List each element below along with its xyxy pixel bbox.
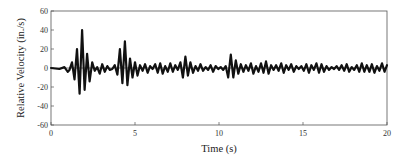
plot-area: 6040200-20-40-60 05101520	[37, 7, 391, 138]
y-tick-label: -40	[37, 102, 48, 111]
y-tick-label: -60	[37, 121, 48, 130]
chart-svg: 6040200-20-40-60 05101520 Time (s) Relat…	[0, 0, 407, 160]
x-tick-label: 20	[383, 129, 391, 138]
velocity-series-line	[51, 30, 387, 94]
y-axis-label: Relative Velocity (in./s)	[15, 18, 27, 118]
x-tick-label: 5	[133, 129, 137, 138]
x-axis-label: Time (s)	[201, 143, 237, 155]
x-tick-label: 10	[215, 129, 223, 138]
y-tick-label: 40	[40, 26, 48, 35]
y-tick-label: 60	[40, 7, 48, 16]
x-tick-label: 15	[299, 129, 307, 138]
x-tick-label: 0	[49, 129, 53, 138]
y-tick-label: -20	[37, 83, 48, 92]
x-axis-ticks: 05101520	[49, 122, 391, 138]
y-tick-label: 20	[40, 45, 48, 54]
y-tick-label: 0	[44, 64, 48, 73]
